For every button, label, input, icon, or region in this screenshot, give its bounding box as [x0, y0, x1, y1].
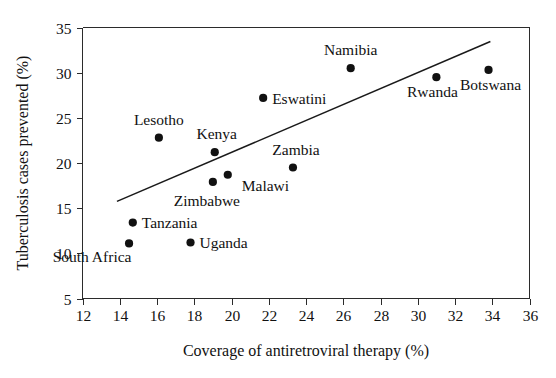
data-point-tanzania [129, 219, 137, 227]
scatter-plot-figure: 5101520253035 12141618202224262830323436… [0, 0, 556, 378]
x-tick-label: 14 [113, 307, 129, 324]
x-tick-label: 20 [225, 307, 241, 324]
data-point-label-botswana: Botswana [460, 76, 521, 93]
y-tick-label: 35 [56, 20, 72, 37]
data-point-label-rwanda: Rwanda [407, 83, 458, 100]
data-point-label-uganda: Uganda [200, 234, 248, 251]
x-tick-label: 26 [336, 307, 352, 324]
data-point-zambia [289, 163, 297, 171]
y-axis-title: Tuberculosis cases prevented (%) [14, 56, 32, 271]
data-point-botswana [484, 66, 492, 74]
x-tick-label: 36 [523, 307, 539, 324]
data-point-label-malawi: Malawi [242, 177, 290, 194]
data-point-label-zambia: Zambia [272, 141, 319, 158]
x-axis-tick-labels: 12141618202224262830323436 [76, 307, 539, 324]
x-tick-label: 28 [374, 307, 390, 324]
data-point-south-africa [125, 239, 133, 247]
x-tick-label: 16 [150, 307, 166, 324]
data-point-zimbabwe [209, 178, 217, 186]
x-tick-label: 24 [299, 307, 315, 324]
y-tick-label: 25 [56, 110, 72, 127]
data-point-lesotho [155, 134, 163, 142]
data-point-rwanda [432, 73, 440, 81]
x-axis-ticks [84, 299, 531, 305]
x-axis-title: Coverage of antiretroviral therapy (%) [183, 342, 429, 360]
chart-canvas: 5101520253035 12141618202224262830323436… [0, 0, 556, 378]
plot-frame [83, 28, 530, 299]
x-tick-label: 34 [485, 307, 501, 324]
data-point-label-group: South AfricaTanzaniaLesothoUgandaZimbabw… [53, 41, 522, 265]
data-point-label-south-africa: South Africa [53, 248, 132, 265]
data-point-label-namibia: Namibia [324, 41, 377, 58]
data-point-label-lesotho: Lesotho [134, 111, 184, 128]
y-tick-label: 30 [56, 65, 72, 82]
x-tick-label: 30 [411, 307, 427, 324]
data-point-label-eswatini: Eswatini [272, 90, 327, 107]
x-tick-label: 32 [448, 307, 464, 324]
data-point-eswatini [259, 94, 267, 102]
data-point-namibia [347, 64, 355, 72]
x-tick-label: 12 [76, 307, 92, 324]
data-point-label-tanzania: Tanzania [142, 214, 198, 231]
data-point-kenya [211, 148, 219, 156]
y-tick-label: 5 [64, 291, 72, 308]
data-point-uganda [186, 238, 194, 246]
x-tick-label: 18 [187, 307, 203, 324]
y-tick-label: 15 [56, 200, 72, 217]
x-tick-label: 22 [262, 307, 278, 324]
y-tick-label: 20 [56, 155, 72, 172]
data-point-label-zimbabwe: Zimbabwe [174, 192, 240, 209]
data-point-malawi [224, 171, 232, 179]
data-point-label-kenya: Kenya [197, 125, 238, 142]
